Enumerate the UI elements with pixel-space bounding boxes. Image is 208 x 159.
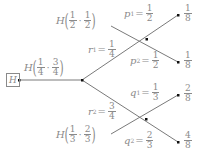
branch-label-r1: r1= 14 xyxy=(88,40,117,59)
leaf-node-2 xyxy=(177,61,180,64)
leaf-label-3: 28 xyxy=(183,84,193,103)
leaf-node-4 xyxy=(177,141,180,144)
branch-label-q1: q1= 13 xyxy=(130,83,160,102)
leaf-label-4: 48 xyxy=(183,131,193,150)
fraction: 34 xyxy=(52,58,60,77)
tree-lines xyxy=(0,0,208,159)
branch-label-q2: q2= 23 xyxy=(124,131,154,150)
entropy-label-middle: H ( 14 · 34 ) xyxy=(24,58,63,77)
right-paren: ) xyxy=(60,59,64,77)
branch-label-p2: p2= 12 xyxy=(130,51,160,70)
leaf-node-3 xyxy=(177,94,180,97)
entropy-label-top: H ( 12 · 12 ) xyxy=(56,11,95,30)
left-paren: ( xyxy=(32,59,36,77)
leaf-label-2: 18 xyxy=(183,51,193,70)
root-box: H xyxy=(6,73,20,87)
middle-node xyxy=(81,79,84,82)
entropy-label-bottom: H ( 13 · 23 ) xyxy=(56,125,95,144)
fraction: 14 xyxy=(37,58,45,77)
branch-label-r2: r2= 34 xyxy=(88,102,117,121)
leaf-label-1: 18 xyxy=(183,4,193,23)
leaf-node-1 xyxy=(177,14,180,17)
lower-node xyxy=(145,118,148,121)
upper-node xyxy=(146,38,149,41)
branch-label-p1: p1= 12 xyxy=(124,4,154,23)
